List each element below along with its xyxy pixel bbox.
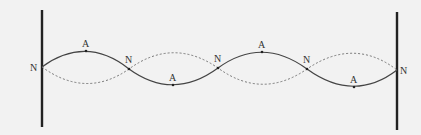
antinode-dot: [261, 51, 264, 54]
standing-wave-diagram: N N N N N A A A A: [0, 0, 421, 135]
node-dot: [306, 68, 309, 71]
antinode-dot: [353, 86, 356, 89]
antinode-label: A: [82, 38, 90, 49]
antinode-label: A: [258, 39, 266, 50]
antinode-label: A: [169, 72, 177, 83]
node-dot: [217, 67, 220, 70]
antinode-label: A: [350, 74, 358, 85]
node-label: N: [125, 54, 132, 65]
node-label: N: [30, 62, 37, 73]
node-label: N: [303, 54, 310, 65]
antinode-dot: [85, 50, 88, 53]
node-label: N: [400, 65, 407, 76]
node-label: N: [214, 53, 221, 64]
node-dot: [128, 68, 131, 71]
antinode-dot: [172, 84, 175, 87]
